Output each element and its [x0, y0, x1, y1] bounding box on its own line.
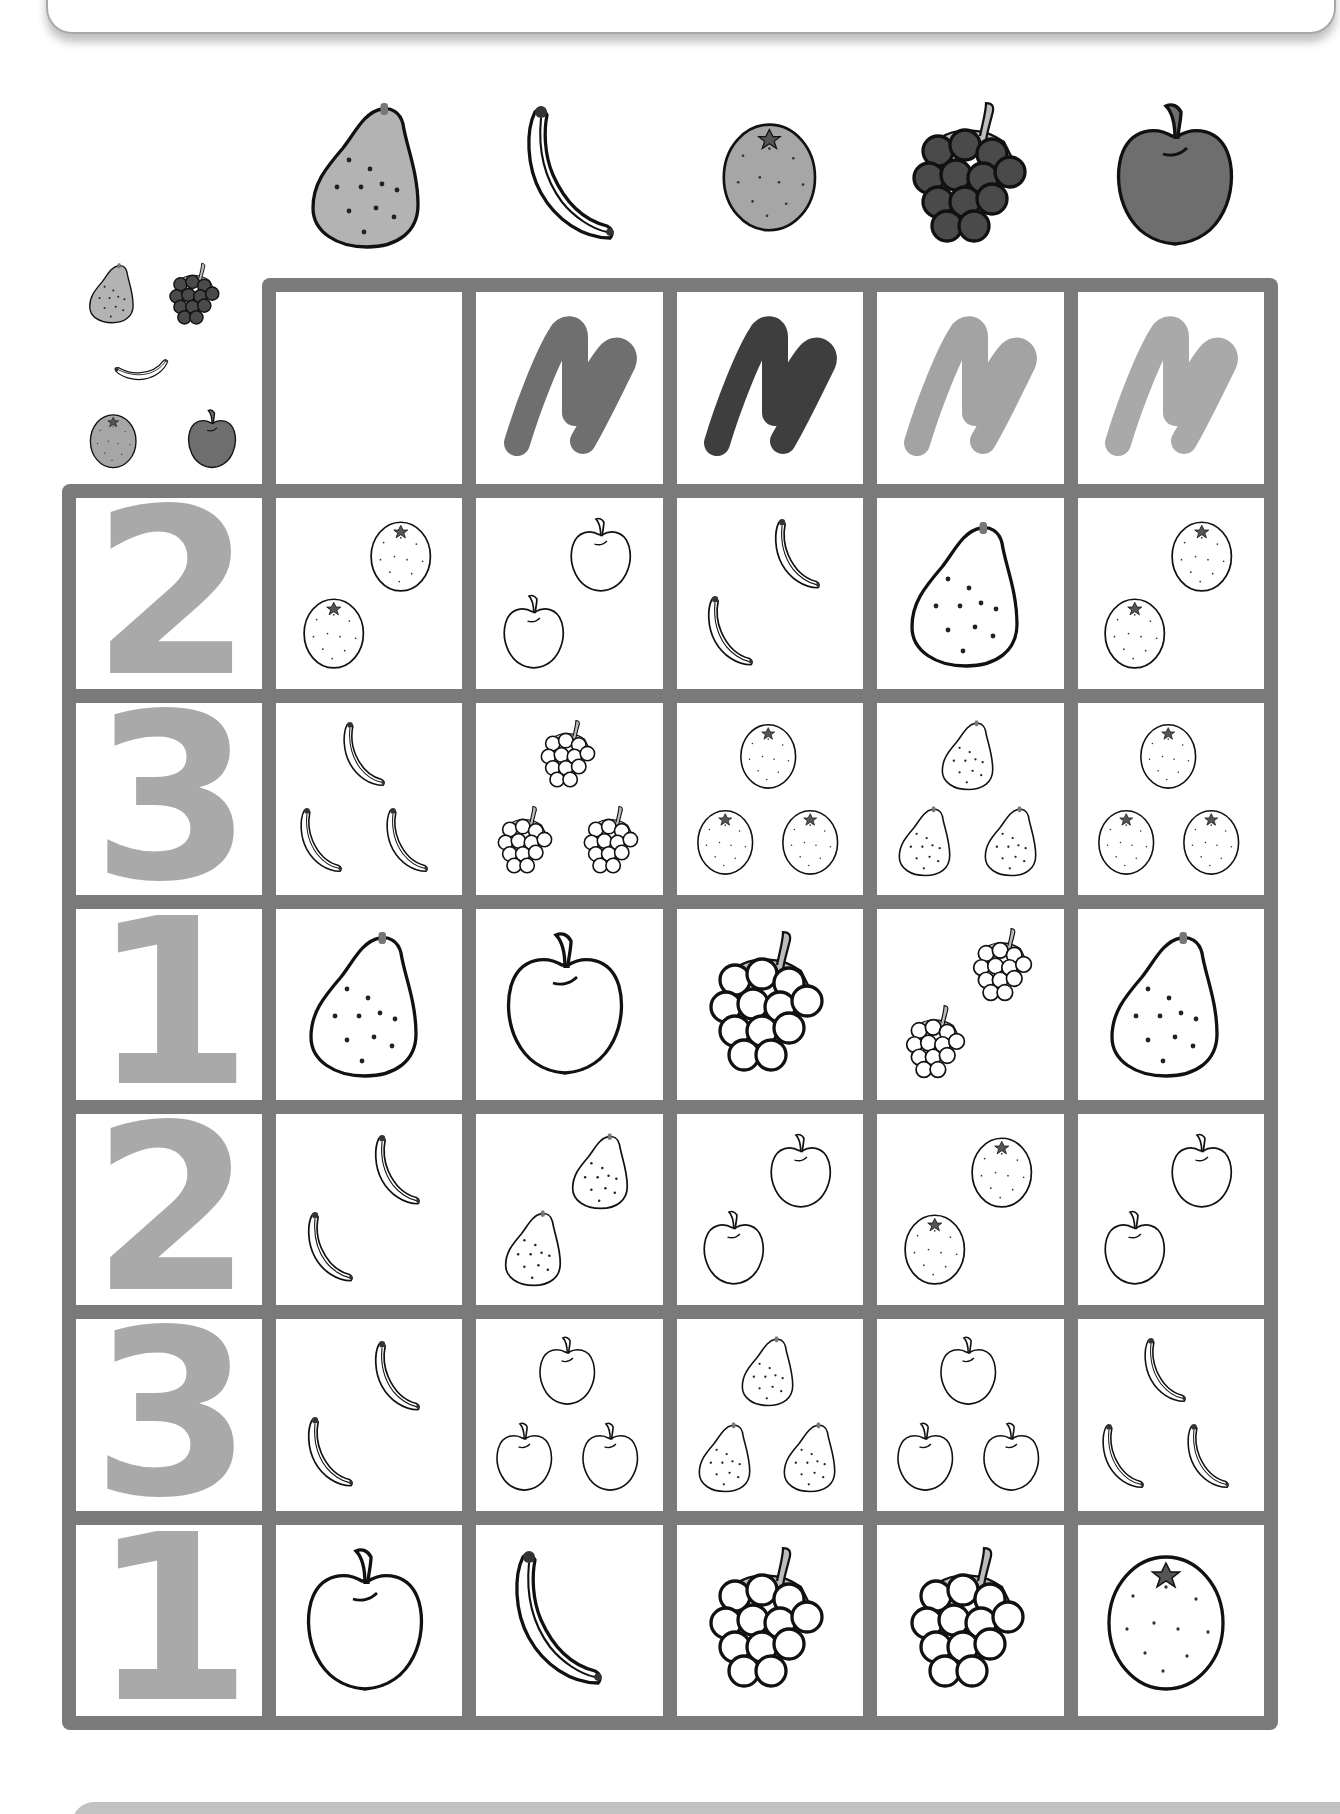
orange-icon [1103, 1545, 1231, 1695]
orange-icon [969, 1132, 1035, 1210]
grapes-icon [702, 929, 837, 1079]
fruit-cell-r0-c0[interactable] [276, 498, 462, 689]
fruit-cell-r1-c1[interactable] [476, 703, 662, 894]
orange-icon [1181, 805, 1242, 877]
fruit-cell-r2-c2[interactable] [677, 909, 863, 1100]
fruit-cell-r2-c0[interactable] [276, 909, 462, 1100]
apple-icon [981, 1421, 1042, 1493]
apple-icon [895, 1421, 956, 1493]
legend-banana-icon [109, 341, 176, 396]
row-number-cell: 2 [76, 498, 262, 689]
banana-icon [368, 1132, 423, 1210]
pear-icon [981, 805, 1039, 877]
legend-grapes-icon [166, 262, 225, 332]
orange-icon [719, 115, 821, 239]
banana-icon [514, 100, 619, 254]
pear-icon [695, 1421, 753, 1493]
row-number-cell: 2 [76, 1114, 262, 1305]
fruit-cell-r4-c2[interactable] [677, 1319, 863, 1510]
apple-icon [580, 1421, 641, 1493]
grapes-icon [903, 1545, 1038, 1695]
fruit-cell-r0-c2[interactable] [677, 498, 863, 689]
counting-grid: 2 [62, 484, 1278, 1730]
banana-icon [368, 1338, 423, 1416]
fruit-cell-r3-c1[interactable] [476, 1114, 662, 1305]
fruit-cell-r0-c4[interactable] [1078, 498, 1264, 689]
apple-icon [502, 929, 630, 1079]
fruit-cell-r1-c0[interactable] [276, 703, 462, 894]
pear-icon [780, 1421, 838, 1493]
fruit-cell-r4-c1[interactable] [476, 1319, 662, 1510]
pear-icon [895, 805, 953, 877]
apple-icon [768, 1132, 834, 1210]
fruit-cell-r1-c3[interactable] [877, 703, 1063, 894]
banana-icon [301, 1209, 356, 1287]
legend-pear-icon [86, 262, 136, 328]
fruit-cell-r2-c4[interactable] [1078, 909, 1264, 1100]
fruit-cell-r3-c0[interactable] [276, 1114, 462, 1305]
fruit-cell-r5-c0[interactable] [276, 1525, 462, 1716]
color-key-cell-3[interactable] [877, 292, 1063, 484]
banana-icon [502, 1545, 607, 1695]
color-key-cell-4[interactable] [1078, 292, 1264, 484]
pear-icon [738, 1335, 796, 1407]
fruit-cell-r5-c2[interactable] [677, 1525, 863, 1716]
fruit-cell-r5-c4[interactable] [1078, 1525, 1264, 1716]
fruit-cell-r0-c3[interactable] [877, 498, 1063, 689]
color-key-cell-2[interactable] [677, 292, 863, 484]
header-fruit-apple [1074, 92, 1277, 262]
apple-icon [568, 516, 634, 594]
top-instruction-panel [46, 0, 1336, 34]
color-key-cell-1[interactable] [476, 292, 662, 484]
header-fruits-row [262, 92, 1278, 262]
orange-icon [1096, 805, 1157, 877]
apple-icon [938, 1335, 999, 1407]
fruit-cell-r2-c3[interactable] [877, 909, 1063, 1100]
fruit-cell-r3-c4[interactable] [1078, 1114, 1264, 1305]
crayon-scribble-icon [695, 313, 845, 463]
orange-icon [301, 593, 367, 671]
color-key-grid [262, 278, 1278, 498]
banana-icon [1138, 1335, 1188, 1407]
grapes-icon [494, 805, 559, 877]
grapes-icon [905, 100, 1040, 254]
pear-icon [903, 519, 1023, 669]
crayon-scribble-icon [895, 313, 1045, 463]
grapes-icon [537, 719, 602, 791]
header-fruit-grapes [871, 92, 1074, 262]
apple-icon [501, 593, 567, 671]
apple-icon [1112, 100, 1240, 254]
row-number-cell: 3 [76, 1319, 262, 1510]
orange-icon [780, 805, 841, 877]
banana-icon [337, 719, 387, 791]
fruit-cell-r4-c3[interactable] [877, 1319, 1063, 1510]
grapes-icon [902, 1004, 972, 1082]
fruit-cell-r3-c2[interactable] [677, 1114, 863, 1305]
fruit-cell-r3-c3[interactable] [877, 1114, 1063, 1305]
fruit-cell-r5-c3[interactable] [877, 1525, 1063, 1716]
banana-icon [380, 805, 430, 877]
banana-icon [1181, 1421, 1231, 1493]
fruit-cell-r5-c1[interactable] [476, 1525, 662, 1716]
header-fruit-banana [465, 92, 668, 262]
color-key-cell-0[interactable] [276, 292, 462, 484]
grapes-icon [969, 927, 1039, 1005]
orange-icon [902, 1209, 968, 1287]
apple-icon [1169, 1132, 1235, 1210]
banana-icon [768, 516, 823, 594]
crayon-scribble-icon [1096, 313, 1246, 463]
fruit-cell-r0-c1[interactable] [476, 498, 662, 689]
fruit-cell-r4-c0[interactable] [276, 1319, 462, 1510]
apple-icon [1102, 1209, 1168, 1287]
fruit-cell-r1-c4[interactable] [1078, 703, 1264, 894]
pear-icon [304, 100, 424, 254]
fruit-cell-r2-c1[interactable] [476, 909, 662, 1100]
fruit-cell-r4-c4[interactable] [1078, 1319, 1264, 1510]
row-number-cell: 1 [76, 909, 262, 1100]
apple-icon [302, 1545, 430, 1695]
fruit-cell-r1-c2[interactable] [677, 703, 863, 894]
banana-icon [1096, 1421, 1146, 1493]
bottom-panel [72, 1802, 1340, 1814]
orange-icon [738, 719, 799, 791]
row-number: 1 [92, 1505, 246, 1735]
